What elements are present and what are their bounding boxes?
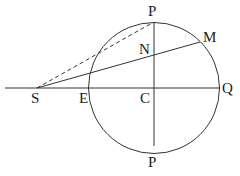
diagram-svg [0,0,240,176]
label-N: N [139,42,150,57]
label-E: E [79,91,88,106]
line-SM [37,42,200,88]
label-Q: Q [222,81,233,96]
geometry-diagram: P M N S E C Q P [0,0,240,176]
label-S: S [31,91,39,106]
label-M: M [203,30,216,45]
dashed-line-SP [37,23,152,88]
label-P-bottom: P [148,155,156,170]
label-C: C [140,91,150,106]
label-P-top: P [148,4,156,19]
